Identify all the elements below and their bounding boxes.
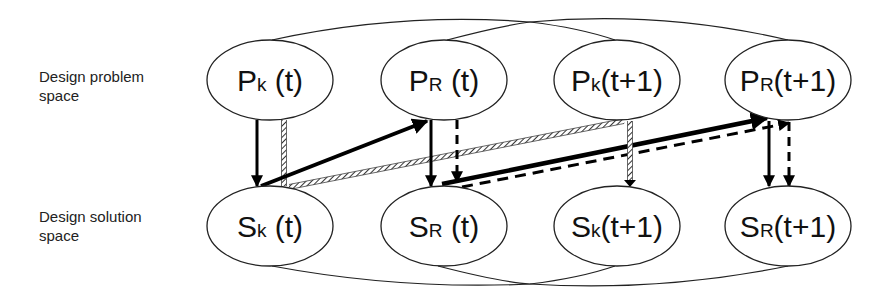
edge-dashed (462, 123, 789, 187)
arc-sr-t-to-sr-t1 (438, 266, 788, 286)
svg-text:Sk(t+1): Sk(t+1) (571, 210, 663, 243)
svg-text:Sk (t): Sk (t) (237, 210, 303, 243)
node-pk-t1: Pk(t+1) (554, 40, 680, 120)
node-pr-t: PR (t) (381, 40, 507, 120)
solution-nodes: Sk (t) SR (t) Sk(t+1) SR(t+1) (207, 186, 851, 266)
svg-text:Pk (t): Pk (t) (237, 64, 303, 97)
edge-solid (442, 118, 767, 184)
problem-nodes: Pk (t) PR (t) Pk(t+1) PR(t+1) (207, 40, 851, 120)
node-sr-t1: SR(t+1) (725, 186, 851, 266)
edges (257, 118, 789, 190)
svg-text:PR (t): PR (t) (409, 64, 479, 97)
svg-text:PR(t+1): PR(t+1) (740, 64, 836, 97)
svg-text:SR (t): SR (t) (409, 210, 479, 243)
node-pk-t: Pk (t) (207, 40, 333, 120)
svg-text:Pk(t+1): Pk(t+1) (571, 64, 663, 97)
arc-pr-t-to-pr-t1 (447, 19, 788, 40)
node-pr-t1: PR(t+1) (725, 40, 851, 120)
bottom-arcs (272, 266, 788, 286)
arc-pk-t-to-pk-t1 (272, 19, 615, 40)
node-sk-t: Sk (t) (207, 186, 333, 266)
node-sk-t1: Sk(t+1) (554, 186, 680, 266)
design-process-diagram: Pk (t) PR (t) Pk(t+1) PR(t+1) Sk (t) SR … (0, 0, 891, 305)
top-arcs (272, 19, 788, 40)
arc-sk-t-to-sk-t1 (272, 266, 615, 285)
node-sr-t: SR (t) (381, 186, 507, 266)
svg-text:SR(t+1): SR(t+1) (740, 210, 836, 243)
